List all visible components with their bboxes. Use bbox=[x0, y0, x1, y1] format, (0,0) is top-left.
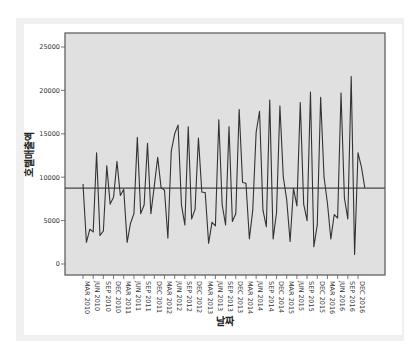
x-tick-label: DEC 2012 bbox=[195, 281, 203, 313]
data-point bbox=[235, 213, 236, 214]
data-point bbox=[249, 239, 250, 240]
x-tick-label: JUN 2010 bbox=[93, 280, 101, 311]
data-point bbox=[83, 184, 84, 185]
x-tick-label: SEP 2016 bbox=[348, 281, 356, 312]
data-point bbox=[225, 225, 226, 226]
data-point bbox=[117, 161, 118, 162]
data-point bbox=[181, 205, 182, 206]
data-point bbox=[344, 198, 345, 199]
data-point bbox=[147, 143, 148, 144]
data-point bbox=[100, 235, 101, 236]
data-point bbox=[134, 213, 135, 214]
data-point bbox=[354, 254, 355, 255]
x-tick-label: JUN 2013 bbox=[216, 280, 224, 311]
data-point bbox=[327, 203, 328, 204]
y-tick-label: 15000 bbox=[39, 130, 60, 138]
x-tick-label: DEC 2015 bbox=[318, 281, 326, 313]
x-tick-label: JUN 2015 bbox=[297, 280, 305, 311]
plot-area bbox=[65, 33, 385, 275]
data-point bbox=[300, 102, 301, 103]
x-tick-label: MAR 2013 bbox=[206, 281, 214, 314]
data-point bbox=[171, 151, 172, 152]
x-tick-label: JUN 2011 bbox=[134, 280, 142, 311]
y-tick-label: 0 bbox=[56, 260, 60, 268]
data-point bbox=[161, 187, 162, 188]
y-tick-label: 20000 bbox=[39, 87, 60, 95]
x-tick-label: JUN 2014 bbox=[256, 280, 264, 311]
data-point bbox=[93, 232, 94, 233]
data-point bbox=[273, 239, 274, 240]
data-point bbox=[154, 186, 155, 187]
data-point bbox=[280, 106, 281, 107]
data-point bbox=[219, 120, 220, 121]
data-point bbox=[334, 214, 335, 215]
data-point bbox=[174, 134, 175, 135]
data-point bbox=[86, 242, 87, 243]
line-chart: 0500010000150002000025000 MAR 2010JUN 20… bbox=[0, 0, 413, 353]
data-point bbox=[297, 206, 298, 207]
data-point bbox=[195, 209, 196, 210]
data-point bbox=[361, 166, 362, 167]
data-point bbox=[358, 153, 359, 154]
data-point bbox=[337, 218, 338, 219]
data-point bbox=[191, 219, 192, 220]
x-tick-label: MAR 2011 bbox=[124, 281, 132, 314]
x-tick-label: MAR 2014 bbox=[246, 281, 254, 314]
data-point bbox=[246, 183, 247, 184]
data-point bbox=[283, 177, 284, 178]
data-point bbox=[310, 92, 311, 93]
y-axis: 0500010000150002000025000 bbox=[39, 43, 65, 268]
data-point bbox=[113, 197, 114, 198]
x-tick-label: DEC 2010 bbox=[114, 281, 122, 313]
data-point bbox=[188, 127, 189, 128]
data-point bbox=[269, 100, 270, 101]
data-point bbox=[320, 97, 321, 98]
data-point bbox=[202, 192, 203, 193]
data-point bbox=[164, 190, 165, 191]
data-point bbox=[89, 229, 90, 230]
data-point bbox=[144, 205, 145, 206]
data-point bbox=[290, 241, 291, 242]
data-point bbox=[324, 177, 325, 178]
data-point bbox=[178, 125, 179, 126]
data-point bbox=[168, 238, 169, 239]
data-point bbox=[120, 195, 121, 196]
x-tick-label: MAR 2015 bbox=[287, 281, 295, 314]
x-tick-label: MAR 2010 bbox=[83, 281, 91, 314]
data-point bbox=[303, 204, 304, 205]
data-point bbox=[106, 166, 107, 167]
data-point bbox=[137, 137, 138, 138]
data-point bbox=[256, 132, 257, 133]
data-point bbox=[185, 225, 186, 226]
data-point bbox=[96, 153, 97, 154]
x-tick-label: DEC 2016 bbox=[358, 281, 366, 313]
data-point bbox=[208, 243, 209, 244]
x-tick-label: SEP 2013 bbox=[226, 281, 234, 312]
x-tick-label: SEP 2014 bbox=[267, 281, 275, 312]
data-point bbox=[130, 223, 131, 224]
x-tick-label: SEP 2012 bbox=[185, 281, 193, 312]
y-tick-label: 5000 bbox=[43, 217, 60, 225]
data-point bbox=[314, 246, 315, 247]
data-point bbox=[215, 226, 216, 227]
data-point bbox=[348, 219, 349, 220]
x-axis-title: 날짜 bbox=[216, 315, 235, 327]
data-point bbox=[286, 199, 287, 200]
x-tick-label: DEC 2011 bbox=[155, 281, 163, 313]
data-point bbox=[276, 212, 277, 213]
x-tick-label: MAR 2012 bbox=[165, 281, 173, 314]
data-point bbox=[307, 220, 308, 221]
data-point bbox=[259, 111, 260, 112]
x-tick-label: SEP 2011 bbox=[144, 281, 152, 312]
data-point bbox=[198, 138, 199, 139]
data-point bbox=[229, 127, 230, 128]
data-point bbox=[252, 210, 253, 211]
x-tick-label: MAR 2016 bbox=[328, 281, 336, 314]
data-point bbox=[293, 188, 294, 189]
data-point bbox=[331, 239, 332, 240]
x-tick-label: SEP 2015 bbox=[307, 281, 315, 312]
data-point bbox=[157, 157, 158, 158]
x-tick-label: JUN 2016 bbox=[338, 280, 346, 311]
data-point bbox=[212, 222, 213, 223]
data-point bbox=[364, 187, 365, 188]
